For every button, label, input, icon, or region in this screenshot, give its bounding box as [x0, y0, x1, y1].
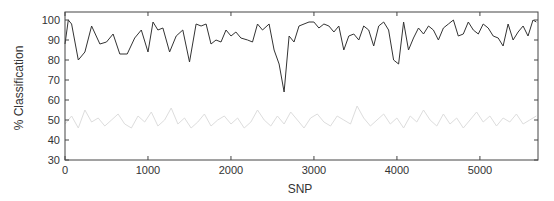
y-tick-label: 80 [48, 54, 60, 66]
series-lower-line [65, 106, 536, 128]
y-tick-label: 30 [48, 154, 60, 166]
y-tick-label: 90 [48, 34, 60, 46]
line-chart: 010002000300040005000 30405060708090100 … [0, 0, 554, 201]
y-tick-label: 50 [48, 114, 60, 126]
y-tick-label: 100 [42, 14, 60, 26]
x-tick-label: 1000 [136, 164, 160, 176]
x-axis-label: SNP [288, 182, 313, 196]
x-axis-ticks: 010002000300040005000 [62, 12, 492, 176]
y-tick-label: 40 [48, 134, 60, 146]
plot-series [65, 20, 536, 128]
y-tick-label: 60 [48, 94, 60, 106]
x-tick-label: 5000 [468, 164, 492, 176]
x-tick-label: 2000 [219, 164, 243, 176]
x-tick-label: 3000 [302, 164, 326, 176]
y-tick-label: 70 [48, 74, 60, 86]
x-tick-label: 4000 [385, 164, 409, 176]
series-upper-line [65, 20, 536, 92]
plot-frame [65, 12, 538, 160]
y-axis-label: % Classification [12, 46, 26, 131]
x-tick-label: 0 [62, 164, 68, 176]
